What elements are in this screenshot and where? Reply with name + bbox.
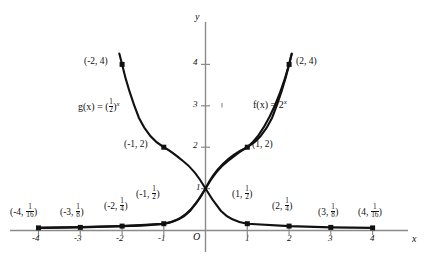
g-point-minus1-open: (-1, [136,189,152,199]
point-label-2-4: (2, 4) [296,57,317,67]
g-point-2-close: ) [289,201,292,211]
g-point-4-denominator: 16 [371,211,379,219]
g-point-minus3: (-3, 18) [60,204,84,220]
g-point-minus3-fraction: 18 [76,204,81,220]
curve-label-g-exponent: x [117,100,120,108]
graph-canvas [0,0,430,259]
g-point-1: (1, 12) [232,186,252,202]
g-point-4: (4, 116) [358,204,382,220]
origin-label: O [193,232,200,242]
x-tick-1: 1 [245,234,250,243]
g-point-minus2-numerator: 1 [120,198,125,205]
exponential-functions-figure: y x O -4 -3 -2 -1 1 2 3 4 1 2 3 4 (-2, 4… [0,0,430,259]
curve-label-f: f(x) = 2x [253,99,287,110]
g-point-3-close: ) [335,207,338,217]
g-point-1-denominator: 2 [245,193,250,201]
g-point-2-denominator: 4 [285,205,290,213]
g-point-minus1-close: ) [156,189,159,199]
g-point-4-fraction: 116 [371,204,379,220]
g-point-minus3-denominator: 8 [76,211,81,219]
g-point-minus1-fraction: 12 [152,186,157,202]
curve-label-g-fraction-numerator: 1 [109,99,114,106]
g-point-2-fraction: 14 [285,198,290,214]
curve-label-g-fraction: 12 [109,99,114,115]
y-tick-1: 1 [196,183,201,192]
g-point-minus4: (-4, 116) [10,204,37,220]
g-point-minus3-open: (-3, [60,207,76,217]
point-label-minus1-2: (-1, 2) [124,140,148,150]
g-point-3-fraction: 18 [331,204,336,220]
y-tick-2: 2 [193,141,198,150]
y-tick-3: 3 [193,100,198,109]
g-point-minus2: (-2, 14) [104,198,128,214]
curve-label-f-lhs: f(x) = 2 [253,99,284,110]
g-point-minus3-numerator: 1 [76,204,81,211]
curve-label-f-exponent: x [284,98,287,106]
x-tick-3: 3 [328,234,333,243]
curve-label-g: g(x) = (12)x [78,99,120,115]
y-axis-label: y [195,12,199,22]
g-point-3-numerator: 1 [331,204,336,211]
g-point-minus1: (-1, 12) [136,186,160,202]
g-point-minus4-fraction: 116 [26,204,34,220]
y-tick-4: 4 [193,58,198,67]
g-point-1-open: (1, [232,189,245,199]
g-point-minus2-denominator: 4 [120,205,125,213]
g-point-minus4-denominator: 16 [26,211,34,219]
g-point-minus2-fraction: 14 [120,198,125,214]
x-tick-2: 2 [287,234,292,243]
g-point-1-close: ) [249,189,252,199]
g-point-3-denominator: 8 [331,211,336,219]
curve-g [119,54,372,228]
curve-label-g-lhs: g(x) = ( [78,101,109,112]
g-point-minus2-open: (-2, [104,201,120,211]
g-point-3: (3, 18) [318,204,338,220]
g-point-4-close: ) [379,207,382,217]
g-point-4-numerator: 1 [371,204,379,211]
x-axis-label: x [412,234,416,244]
g-point-2-numerator: 1 [285,198,290,205]
g-point-minus4-numerator: 1 [26,204,34,211]
point-label-minus2-4: (-2, 4) [84,57,108,67]
g-point-2: (2, 14) [272,198,292,214]
x-tick--3: -3 [74,234,82,243]
g-point-1-fraction: 12 [245,186,250,202]
x-tick--2: -2 [116,234,124,243]
g-point-minus1-numerator: 1 [152,186,157,193]
g-point-2-open: (2, [272,201,285,211]
g-point-minus3-close: ) [80,207,83,217]
x-tick--1: -1 [158,234,166,243]
g-point-minus1-denominator: 2 [152,193,157,201]
g-point-3-open: (3, [318,207,331,217]
g-point-minus4-open: (-4, [10,207,26,217]
g-point-1-numerator: 1 [245,186,250,193]
x-tick--4: -4 [32,234,40,243]
curve-label-g-fraction-denominator: 2 [109,106,114,114]
point-label-1-2: (1, 2) [252,140,273,150]
g-point-4-open: (4, [358,207,371,217]
g-point-minus2-close: ) [124,201,127,211]
x-tick-4: 4 [370,234,375,243]
g-point-minus4-close: ) [34,207,37,217]
